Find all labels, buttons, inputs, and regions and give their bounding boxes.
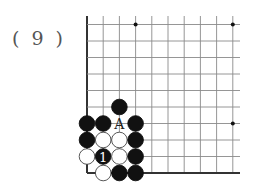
black-stone-icon (112, 165, 128, 181)
black-stone-icon (79, 132, 95, 148)
point-labels: A (113, 116, 125, 132)
white-stone (95, 132, 111, 148)
black-stone (128, 116, 144, 132)
white-stone-icon (95, 165, 111, 181)
black-stone-icon (95, 116, 111, 132)
black-stone-icon (79, 116, 95, 132)
black-stone (128, 132, 144, 148)
star-point-icon (231, 122, 235, 126)
white-stone-icon (95, 132, 111, 148)
black-stone-icon (128, 165, 144, 181)
white-stone (79, 149, 95, 165)
go-board-diagram: 1 A (0, 0, 257, 192)
black-stone-icon (128, 149, 144, 165)
black-stone (112, 165, 128, 181)
white-stone (112, 149, 128, 165)
white-stone (95, 165, 111, 181)
board-grid (87, 16, 240, 173)
white-stone (112, 132, 128, 148)
black-stone (95, 116, 111, 132)
black-stone-icon (112, 99, 128, 115)
black-stone (79, 116, 95, 132)
black-stone: 1 (95, 149, 111, 165)
black-stone-icon (128, 132, 144, 148)
black-stone (112, 99, 128, 115)
white-stone-icon (112, 132, 128, 148)
move-number: 1 (99, 150, 107, 165)
white-stone-icon (112, 149, 128, 165)
black-stone (79, 132, 95, 148)
black-stone (128, 149, 144, 165)
black-stone-icon (128, 116, 144, 132)
star-point-icon (231, 23, 235, 27)
white-stone-icon (79, 149, 95, 165)
point-label-a: A (113, 116, 125, 132)
stones-layer: 1 (79, 99, 143, 181)
black-stone (128, 165, 144, 181)
star-point-icon (134, 23, 138, 27)
